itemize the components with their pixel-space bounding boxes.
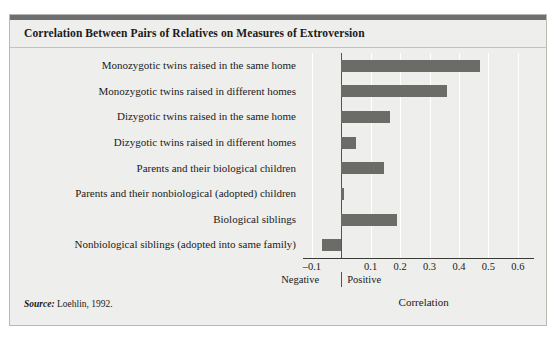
chart-row: Dizygotic twins raised in different home… [24, 130, 534, 156]
chart-row: Parents and their nonbiological (adopted… [24, 181, 534, 207]
negative-label: Negative [281, 274, 319, 285]
bar [341, 188, 344, 200]
x-tick-label: 0.2 [394, 261, 407, 272]
x-axis-line [303, 258, 534, 259]
chart-row: Nonbiological siblings (adopted into sam… [24, 232, 534, 258]
chart-row: Dizygotic twins raised in the same home [24, 104, 534, 130]
category-label: Monozygotic twins raised in different ho… [24, 79, 296, 105]
x-tick-label: 0.6 [511, 261, 524, 272]
bar [341, 85, 447, 97]
bar [341, 162, 384, 174]
x-tick-label: 0.3 [423, 261, 436, 272]
chart-row: Monozygotic twins raised in different ho… [24, 79, 534, 105]
sign-divider [341, 272, 342, 287]
bar [341, 60, 479, 72]
x-tick-label: 0.4 [452, 261, 465, 272]
category-label: Parents and their biological children [24, 156, 296, 182]
source-prefix: Source: [24, 299, 55, 309]
category-label: Dizygotic twins raised in different home… [24, 130, 296, 156]
page-title: Correlation Between Pairs of Relatives o… [24, 27, 365, 39]
bar [341, 111, 390, 123]
bar [341, 214, 397, 226]
chart-row: Biological siblings [24, 207, 534, 233]
source-note: Source: Loehlin, 1992. [24, 299, 113, 309]
category-label: Biological siblings [24, 207, 296, 233]
positive-label: Positive [347, 274, 381, 285]
x-axis-title: Correlation [399, 296, 449, 308]
x-tick-label: 0.1 [364, 261, 377, 272]
accent-top-bar [10, 15, 546, 20]
bar [322, 239, 341, 251]
chart-row: Parents and their biological children [24, 156, 534, 182]
x-tick-label: –0.1 [303, 261, 321, 272]
source-text: Loehlin, 1992. [55, 299, 113, 309]
category-label: Monozygotic twins raised in the same hom… [24, 53, 296, 79]
title-divider [10, 47, 546, 48]
chart-row: Monozygotic twins raised in the same hom… [24, 53, 534, 79]
figure-panel: Correlation Between Pairs of Relatives o… [9, 14, 547, 326]
category-label: Dizygotic twins raised in the same home [24, 104, 296, 130]
category-label: Nonbiological siblings (adopted into sam… [24, 232, 296, 258]
x-axis-sign-labels: Negative Positive [303, 274, 534, 290]
chart-plot-area: Monozygotic twins raised in the same hom… [24, 53, 534, 273]
bar [341, 137, 356, 149]
x-tick-label: 0.5 [482, 261, 495, 272]
category-label: Parents and their nonbiological (adopted… [24, 181, 296, 207]
